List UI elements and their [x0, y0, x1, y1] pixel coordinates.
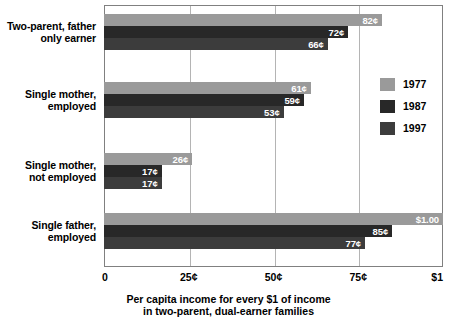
category-label-line: Single mother,: [0, 88, 96, 101]
bar: 77¢: [104, 237, 365, 249]
bar-value-label: 85¢: [373, 226, 389, 237]
category-label: Two-parent, fatheronly earner: [0, 20, 96, 45]
category-label: Single father,employed: [0, 219, 96, 244]
bar-value-label: 26¢: [173, 154, 189, 165]
category-label-line: Single mother,: [0, 159, 96, 172]
x-axis-caption: Per capita income for every $1 of income…: [0, 293, 457, 317]
legend-swatch-1997: [380, 122, 395, 135]
x-tick-label: 25¢: [180, 271, 198, 283]
bar-value-label: 82¢: [362, 15, 378, 26]
x-tick-label: $1: [431, 271, 443, 283]
category-label-line: Single father,: [0, 219, 96, 232]
bar: 59¢: [104, 94, 304, 106]
x-tick-label: 50¢: [265, 271, 283, 283]
x-tick-label: 75¢: [349, 271, 367, 283]
legend-swatch-1987: [380, 100, 395, 113]
x-tick-label: 0: [102, 271, 108, 283]
bar: 82¢: [104, 14, 382, 26]
legend-swatch-1977: [380, 78, 395, 91]
x-axis-caption-line1: Per capita income for every $1 of income: [0, 293, 457, 305]
bar: 26¢: [104, 153, 192, 165]
bar-value-label: 17¢: [142, 178, 158, 189]
bar: $1.00: [104, 213, 443, 225]
bar: 72¢: [104, 26, 348, 38]
category-label-line: Two-parent, father: [0, 20, 96, 33]
legend-item: 1987: [380, 96, 426, 116]
bar: 17¢: [104, 165, 162, 177]
legend-label-1977: 1977: [403, 78, 426, 90]
legend-label-1997: 1997: [403, 122, 426, 134]
bar-value-label: 17¢: [142, 166, 158, 177]
category-label-line: employed: [0, 231, 96, 244]
legend-item: 1977: [380, 74, 426, 94]
bar: 17¢: [104, 177, 162, 189]
bar: 61¢: [104, 82, 311, 94]
bar-value-label: 59¢: [284, 95, 300, 106]
bar-value-label: 66¢: [308, 39, 324, 50]
legend-label-1987: 1987: [403, 100, 426, 112]
bar-value-label: 53¢: [264, 107, 280, 118]
category-label: Single mother,employed: [0, 88, 96, 113]
category-label-line: not employed: [0, 171, 96, 184]
bar: 85¢: [104, 225, 392, 237]
bar-value-label: 77¢: [345, 238, 361, 249]
bar-value-label: 61¢: [291, 83, 307, 94]
bar: 66¢: [104, 38, 328, 50]
bar-value-label: 72¢: [329, 27, 345, 38]
category-label-line: employed: [0, 100, 96, 113]
legend-item: 1997: [380, 118, 426, 138]
category-label: Single mother,not employed: [0, 159, 96, 184]
bar: 53¢: [104, 106, 284, 118]
legend: 1977 1987 1997: [380, 74, 426, 140]
bar-value-label: $1.00: [416, 214, 439, 225]
category-label-line: only earner: [0, 32, 96, 45]
x-axis-caption-line2: in two-parent, dual-earner families: [0, 305, 457, 317]
